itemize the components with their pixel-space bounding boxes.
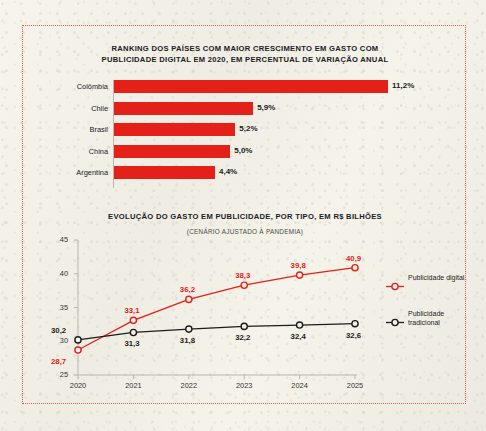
line-chart-subtitle: (CENÁRIO AJUSTADO À PANDEMIA) (95, 228, 395, 235)
bar-value-label: 5,0% (234, 146, 252, 155)
data-point-label: 32,6 (346, 331, 361, 340)
x-axis-tick-label: 2024 (280, 381, 320, 390)
y-axis-tick-label: 45 (46, 235, 68, 244)
legend-marker-icon (386, 277, 404, 286)
legend-marker-icon (386, 313, 404, 322)
bar-segment (114, 166, 215, 179)
legend-label: Publicidade digital (408, 274, 466, 283)
data-point-label: 40,9 (346, 254, 361, 263)
y-axis-tick-label: 25 (46, 370, 68, 379)
bar-segment (114, 123, 235, 136)
data-point-label: 30,2 (51, 326, 66, 335)
bar-chart-title: RANKING DOS PAÍSES COM MAIOR CRESCIMENTO… (95, 44, 395, 65)
data-point-label: 36,2 (180, 285, 195, 294)
bar-segment (114, 145, 230, 158)
x-axis-tick-label: 2023 (224, 381, 264, 390)
bar-value-label: 5,2% (239, 124, 257, 133)
x-axis-tick-label: 2021 (113, 381, 153, 390)
bar-value-label: 5,9% (257, 103, 275, 112)
data-point-label: 38,3 (235, 271, 250, 280)
bar-row: China5,0% (0, 145, 486, 161)
legend-item: Publicidade digital (386, 276, 466, 298)
data-point-label: 28,7 (51, 357, 66, 366)
x-axis-tick-label: 2020 (58, 381, 98, 390)
data-point-label: 31,3 (124, 339, 139, 348)
data-point-label: 32,2 (235, 333, 250, 342)
bar-row: Colômbia11,2% (0, 80, 486, 96)
line-chart-title: EVOLUÇÃO DO GASTO EM PUBLICIDADE, POR TI… (95, 212, 395, 223)
y-axis-tick-label: 30 (46, 336, 68, 345)
x-axis-tick-label: 2022 (169, 381, 209, 390)
bar-row: Argentina4,4% (0, 166, 486, 182)
bar-value-label: 11,2% (392, 81, 414, 90)
data-point-label: 31,8 (180, 336, 195, 345)
line-chart-legend: Publicidade digitalPublicidade tradicion… (386, 276, 466, 348)
y-axis-tick-label: 35 (46, 303, 68, 312)
legend-item: Publicidade tradicional (386, 312, 466, 334)
bar-category-label: Chile (0, 104, 108, 113)
bar-value-label: 4,4% (219, 167, 237, 176)
bar-segment (114, 102, 253, 115)
bar-chart: Colômbia11,2%Chile5,9%Brasil5,2%China5,0… (0, 80, 486, 192)
bar-category-label: China (0, 147, 108, 156)
bar-category-label: Argentina (0, 168, 108, 177)
data-point-label: 39,8 (291, 261, 306, 270)
y-axis-tick-label: 40 (46, 269, 68, 278)
bar-row: Brasil5,2% (0, 123, 486, 139)
bar-category-label: Colômbia (0, 82, 108, 91)
x-axis-tick-label: 2025 (335, 381, 375, 390)
bar-row: Chile5,9% (0, 102, 486, 118)
bar-category-label: Brasil (0, 125, 108, 134)
bar-segment (114, 80, 388, 93)
data-point-label: 32,4 (291, 332, 306, 341)
legend-label: Publicidade tradicional (408, 310, 466, 327)
data-point-label: 33,1 (124, 306, 139, 315)
